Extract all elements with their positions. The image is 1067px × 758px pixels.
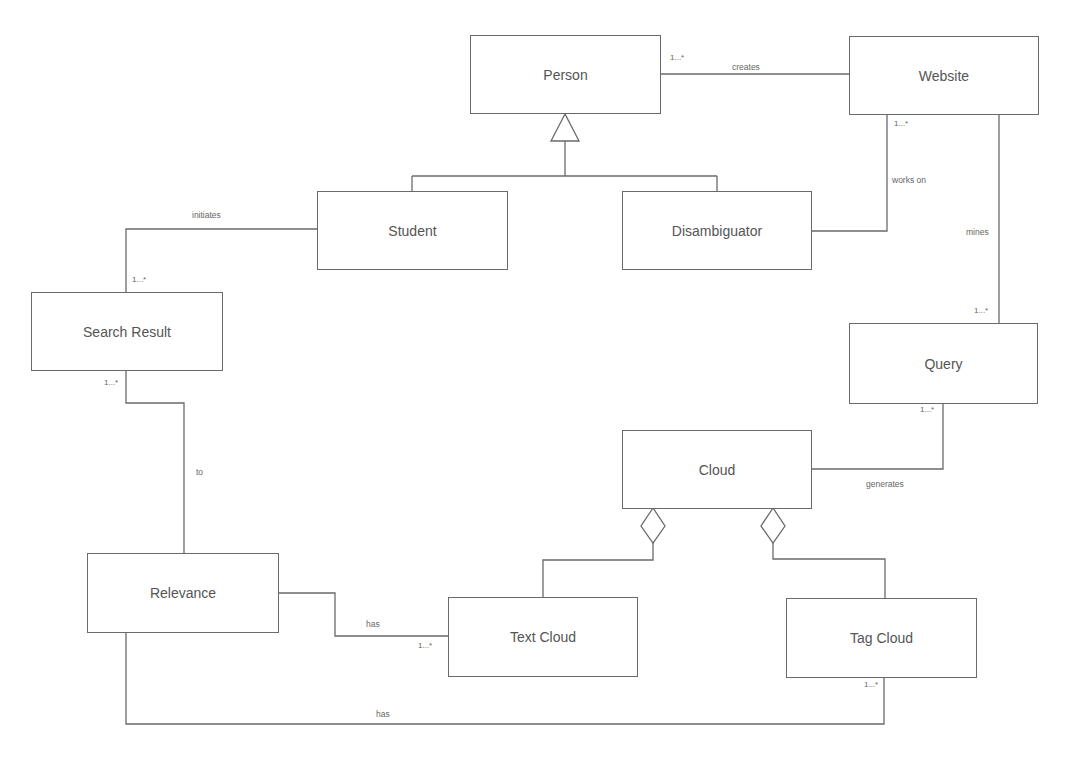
to-association (126, 370, 184, 553)
multiplicity-tag-cloud: 1...* (864, 680, 878, 689)
class-name: Student (388, 223, 436, 239)
class-name: Person (543, 67, 587, 83)
label-generates: generates (866, 479, 904, 489)
multiplicity-website-disambiguator: 1...* (894, 119, 908, 128)
label-mines: mines (966, 227, 989, 237)
class-name: Cloud (699, 462, 736, 478)
label-to: to (196, 467, 203, 477)
class-student[interactable]: Student (317, 191, 508, 270)
class-search-result[interactable]: Search Result (31, 292, 223, 371)
class-name: Relevance (150, 585, 216, 601)
class-name: Text Cloud (510, 629, 576, 645)
label-works-on: works on (892, 175, 926, 185)
aggregation-text-cloud (543, 543, 653, 597)
class-query[interactable]: Query (849, 323, 1038, 404)
aggregation-diamond-icon (641, 508, 665, 543)
class-tag-cloud[interactable]: Tag Cloud (786, 598, 977, 678)
has-text-cloud-association (278, 593, 448, 636)
label-initiates: initiates (192, 210, 221, 220)
multiplicity-person-website: 1...* (670, 53, 684, 62)
label-has-text-cloud: has (366, 619, 380, 629)
class-relevance[interactable]: Relevance (87, 553, 279, 633)
generalization-triangle-icon (551, 114, 579, 141)
multiplicity-search-result-top: 1...* (132, 275, 146, 284)
class-name: Tag Cloud (850, 630, 913, 646)
label-has-tag-cloud: has (376, 709, 390, 719)
works-on-association (811, 114, 887, 231)
multiplicity-search-result-bottom: 1...* (104, 378, 118, 387)
class-name: Query (924, 356, 962, 372)
aggregation-diamond-icon (761, 508, 785, 543)
class-cloud[interactable]: Cloud (622, 430, 812, 509)
class-website[interactable]: Website (849, 36, 1039, 115)
class-name: Search Result (83, 324, 171, 340)
label-creates: creates (732, 62, 760, 72)
class-name: Website (919, 68, 969, 84)
multiplicity-text-cloud: 1...* (418, 641, 432, 650)
class-person[interactable]: Person (470, 35, 661, 114)
class-text-cloud[interactable]: Text Cloud (448, 597, 638, 677)
aggregation-tag-cloud (773, 543, 885, 598)
class-disambiguator[interactable]: Disambiguator (622, 191, 812, 270)
multiplicity-query-top: 1...* (974, 306, 988, 315)
class-name: Disambiguator (672, 223, 762, 239)
initiates-association (126, 229, 317, 292)
multiplicity-query-bottom: 1...* (920, 405, 934, 414)
